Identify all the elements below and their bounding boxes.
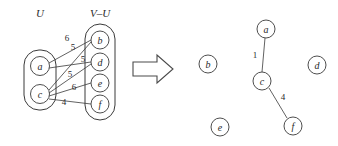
v-node-e: e (91, 74, 109, 92)
node-label-b: b (98, 35, 103, 46)
node-label-a: a (38, 61, 43, 72)
u-node-c: c (31, 85, 50, 104)
right-panel: a b c d e f 1 (199, 20, 326, 136)
v-node-d: d (91, 53, 109, 71)
result-node-b: b (199, 55, 217, 73)
node-label-c: c (38, 89, 43, 100)
weight-c-e: 6 (72, 82, 77, 92)
result-node-e: e (211, 118, 229, 136)
node-label-a-result: a (264, 24, 269, 35)
weight-c-f-result: 4 (281, 92, 286, 102)
v-node-b: b (91, 31, 109, 49)
weight-a-b: 6 (65, 33, 70, 43)
left-panel: U V–U a c (24, 7, 115, 120)
node-label-e: e (98, 78, 103, 89)
node-label-b-result: b (206, 59, 211, 70)
figure-canvas: U V–U a c (0, 0, 338, 146)
set-label-v-minus-u: V–U (90, 7, 111, 19)
weight-a-d: 5 (71, 42, 76, 52)
u-node-a: a (31, 57, 50, 76)
result-node-f: f (284, 117, 302, 135)
result-node-c: c (253, 72, 271, 90)
result-node-d: d (308, 56, 326, 74)
weight-c-f: 4 (62, 97, 67, 107)
weight-c-d: 5 (68, 69, 73, 79)
right-arrow-icon (133, 55, 173, 83)
set-label-u: U (36, 7, 45, 19)
weight-c-b: 5 (81, 54, 86, 64)
result-node-a: a (257, 20, 275, 38)
node-label-e-result: e (218, 122, 223, 133)
node-label-c-result: c (260, 76, 265, 87)
edge-a-c-result (262, 38, 265, 72)
graph-transformation-figure: U V–U a c (0, 0, 338, 146)
weight-a-c-result: 1 (253, 50, 258, 60)
v-node-f: f (91, 95, 109, 113)
